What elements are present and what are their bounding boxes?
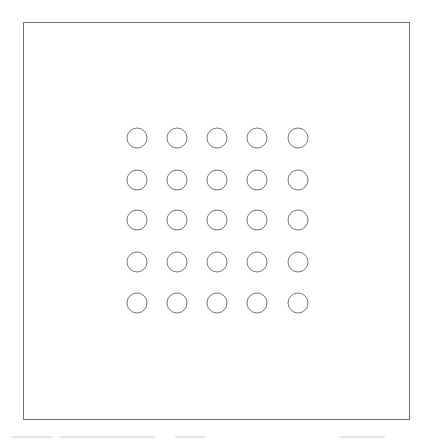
clipped-text-fragment [12,436,52,438]
clipped-text-fragment [340,436,385,438]
clipped-text-fragment [60,436,155,438]
clipped-text-fragment [175,436,205,438]
clipped-caption-area [0,436,432,443]
diagram-frame [23,22,410,420]
